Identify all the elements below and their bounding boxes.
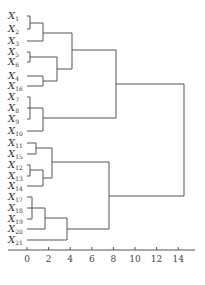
branch: [27, 76, 43, 86]
branch: [27, 52, 30, 62]
x-tick-label: 2: [46, 254, 52, 264]
leaf-label: X2: [7, 23, 19, 35]
dendrogram-branches: [27, 16, 184, 240]
branch: [109, 84, 184, 196]
x-tick-label: 14: [172, 254, 184, 264]
leaf-labels: X1X2X3X5X6X4X16X7X8X9X10X11X15X12X13X14X…: [7, 10, 23, 246]
x-tick-label: 10: [129, 254, 141, 264]
branch: [52, 162, 109, 229]
x-tick-label: 8: [111, 254, 117, 264]
x-axis: 02468101214: [8, 247, 195, 264]
branch: [27, 16, 30, 29]
branch: [27, 170, 43, 186]
branch: [27, 143, 36, 154]
x-tick-label: 0: [24, 254, 30, 264]
x-tick-label: 6: [89, 254, 95, 264]
branch: [36, 148, 52, 178]
leaf-label: X21: [7, 234, 23, 246]
x-tick-label: 12: [151, 254, 162, 264]
leaf-label: X1: [7, 10, 19, 22]
branch: [43, 50, 116, 118]
branch: [27, 23, 43, 41]
x-tick-label: 4: [67, 254, 73, 264]
branch: [27, 165, 30, 176]
leaf-label: X10: [7, 125, 23, 137]
leaf-label: X9: [7, 113, 19, 125]
dendrogram-chart: X1X2X3X5X6X4X16X7X8X9X10X11X15X12X13X14X…: [0, 0, 205, 285]
